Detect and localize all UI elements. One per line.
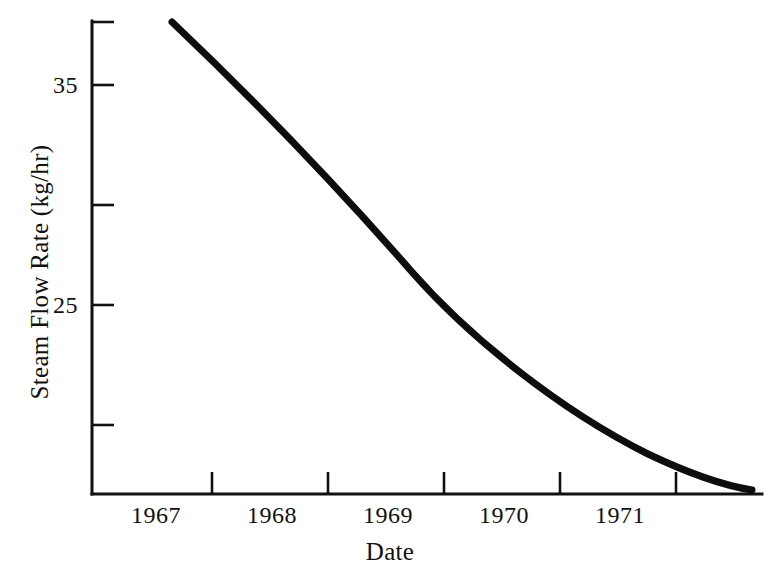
x-tick-label-1970: 1970 <box>458 503 550 527</box>
x-tick-label-1969: 1969 <box>342 503 434 527</box>
plot-area <box>0 0 780 578</box>
steam-flow-rate-curve <box>172 22 752 490</box>
y-axis-title: Steam Flow Rate (kg/hr) <box>26 112 54 432</box>
x-tick-label-1968: 1968 <box>226 503 318 527</box>
chart-figure: 35 25 1967 1968 1969 1970 1971 Steam Flo… <box>0 0 780 578</box>
x-axis-title: Date <box>0 538 780 566</box>
y-tick-label-35: 35 <box>34 73 78 97</box>
x-tick-label-1967: 1967 <box>110 503 202 527</box>
x-tick-label-1971: 1971 <box>574 503 666 527</box>
